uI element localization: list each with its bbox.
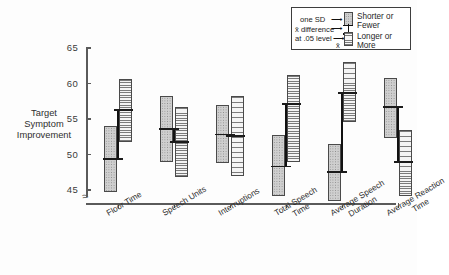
y-tick-label-wrap: 45 xyxy=(0,184,84,196)
legend-diff-label-line1: x̄ difference xyxy=(295,25,334,34)
y-tick-label: 65 xyxy=(56,42,78,53)
legend-label-longer: Longer or More xyxy=(357,32,392,51)
mean-pointer-icon: ⟶ xyxy=(333,35,344,43)
bar-longer-or-more xyxy=(287,75,300,162)
y-tick xyxy=(86,83,91,84)
y-tick-label: 60 xyxy=(56,78,78,89)
y-tick-label: 55 xyxy=(56,113,78,124)
y-axis-line xyxy=(86,47,88,197)
x-tick-label: Speech Units xyxy=(161,185,208,219)
significance-difference-cap xyxy=(282,166,291,168)
significance-difference-cap xyxy=(338,92,347,94)
significance-difference-line xyxy=(117,110,119,159)
legend-swatch-longer xyxy=(344,32,353,46)
y-tick-label-wrap: 55 xyxy=(0,113,84,125)
diff-pointer-icon: ⟶ xyxy=(331,25,342,33)
y-tick-label-wrap: 65 xyxy=(0,42,84,54)
legend-diff-label-line2: at .05 level xyxy=(295,34,332,43)
y-axis-title-line3: Improvement xyxy=(17,130,71,140)
y-tick xyxy=(86,118,91,119)
significance-difference-line xyxy=(285,104,287,166)
significance-difference-cap xyxy=(114,158,123,160)
significance-difference-cap xyxy=(282,103,291,105)
legend-sd-label: one SD xyxy=(300,15,325,24)
y-tick-label-wrap: 50 xyxy=(0,149,84,161)
significance-difference-cap xyxy=(114,109,123,111)
y-tick-label: 45 xyxy=(56,184,78,195)
y-tick xyxy=(86,47,91,48)
bar-shorter-or-fewer xyxy=(384,78,397,138)
significance-difference-cap xyxy=(170,141,179,143)
x-tick-label: Average Reaction Time xyxy=(385,176,449,226)
chart-legend: one SD x̄ difference at .05 level x̄ ⟶ ⟶… xyxy=(291,7,411,50)
significance-difference-line xyxy=(173,129,175,142)
significance-difference-cap xyxy=(170,128,179,130)
significance-difference-line xyxy=(341,93,343,173)
legend-label-shorter: Shorter or Fewer xyxy=(357,12,393,31)
y-tick xyxy=(86,154,91,155)
y-tick-label: 50 xyxy=(56,149,78,160)
significance-difference-line xyxy=(397,107,399,162)
significance-difference-cap xyxy=(394,106,403,108)
significance-difference-cap xyxy=(226,135,235,137)
sd-pointer-icon: ⟶ xyxy=(331,16,342,24)
significance-difference-cap xyxy=(394,161,403,163)
y-tick-label-wrap: 60 xyxy=(0,78,84,90)
significance-difference-cap xyxy=(338,171,347,173)
